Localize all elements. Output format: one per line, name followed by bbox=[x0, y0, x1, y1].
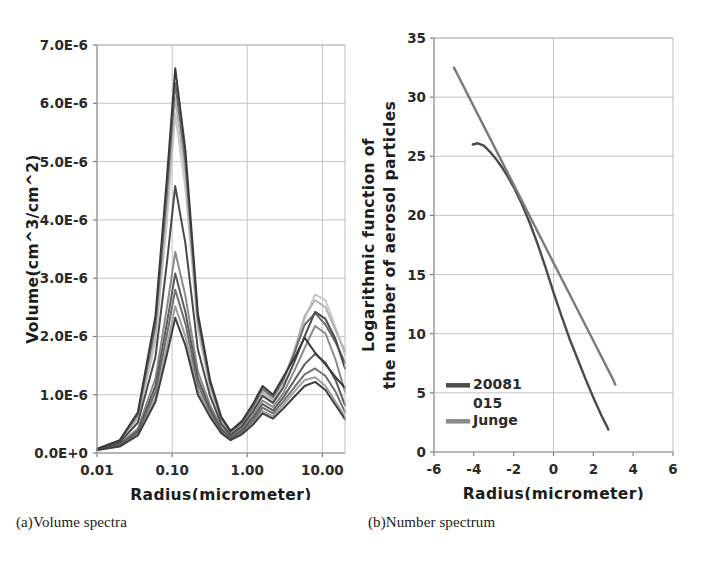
y-tick-label-b: 5 bbox=[417, 385, 426, 401]
gridlines-group-a bbox=[97, 45, 345, 453]
legend-label-series-20081015: 20081 bbox=[473, 376, 522, 392]
y-tick-label-b: 0 bbox=[417, 444, 426, 460]
y-tick-label-b: 25 bbox=[407, 148, 426, 164]
x-tick-label-b: 0 bbox=[549, 461, 558, 477]
x-tick-label-b: 4 bbox=[628, 461, 637, 477]
y-tick-label-b: 10 bbox=[407, 326, 426, 342]
y-axis-title-b-line1: Logarithmic function of bbox=[360, 138, 378, 352]
legend-group-b: 20081015Junge bbox=[446, 376, 522, 428]
y-tick-label-a: 1.0E-6 bbox=[40, 387, 88, 403]
y-tick-label-b: 30 bbox=[407, 89, 426, 105]
y-tick-label-a: 0.0E+0 bbox=[34, 445, 88, 461]
number-curve-Junge bbox=[454, 68, 615, 385]
axis-labels-group-b: 05101520253035-6-4-20246Radius(micromete… bbox=[360, 30, 678, 500]
legend-label-series-20081015-line2: 015 bbox=[473, 395, 502, 411]
x-tick-label-a: 0.01 bbox=[80, 462, 113, 478]
x-tick-label-a: 0.10 bbox=[155, 462, 188, 478]
y-tick-label-a: 3.0E-6 bbox=[40, 270, 88, 286]
y-tick-label-a: 7.0E-6 bbox=[40, 37, 88, 53]
chart-panel-number-spectrum: 20081015Junge 05101520253035-6-4-20246Ra… bbox=[352, 0, 706, 500]
y-tick-label-b: 20 bbox=[407, 207, 426, 223]
x-tick-label-a: 1.00 bbox=[231, 462, 264, 478]
x-tick-label-a: 10.00 bbox=[301, 462, 344, 478]
y-tick-label-a: 5.0E-6 bbox=[40, 154, 88, 170]
y-tick-label-b: 15 bbox=[407, 267, 426, 283]
y-tick-label-a: 2.0E-6 bbox=[40, 328, 88, 344]
volume-spectra-svg: 0.0E+01.0E-62.0E-63.0E-64.0E-65.0E-66.0E… bbox=[0, 0, 360, 500]
y-axis-title-b-line2: the number of aerosol particles bbox=[381, 101, 399, 389]
x-axis-title-a: Radius(micrometer) bbox=[130, 486, 312, 500]
volume-curve bbox=[97, 97, 345, 448]
x-tick-label-b: -2 bbox=[506, 461, 521, 477]
volume-curve bbox=[97, 186, 345, 449]
volume-curve bbox=[97, 83, 345, 449]
volume-curve bbox=[97, 68, 345, 449]
number-spectrum-svg: 20081015Junge 05101520253035-6-4-20246Ra… bbox=[352, 0, 706, 500]
caption-volume-spectra: (a)Volume spectra bbox=[16, 514, 127, 531]
y-tick-label-b: 35 bbox=[407, 30, 426, 46]
chart-panel-volume-spectra: 0.0E+01.0E-62.0E-63.0E-64.0E-65.0E-66.0E… bbox=[0, 0, 360, 500]
y-tick-label-a: 6.0E-6 bbox=[40, 95, 88, 111]
curves-group-a bbox=[97, 68, 345, 450]
x-tick-label-b: -4 bbox=[466, 461, 481, 477]
x-tick-label-b: 6 bbox=[668, 461, 677, 477]
y-tick-label-a: 4.0E-6 bbox=[40, 212, 88, 228]
x-axis-title-b: Radius(micrometer) bbox=[463, 485, 645, 500]
caption-number-spectrum: (b)Number spectrum bbox=[368, 514, 495, 531]
x-tick-label-b: 2 bbox=[589, 461, 598, 477]
axis-labels-group-a: 0.0E+01.0E-62.0E-63.0E-64.0E-65.0E-66.0E… bbox=[24, 37, 344, 500]
y-axis-title-a: Volume(cm^3/cm^2) bbox=[24, 154, 42, 344]
volume-curve bbox=[97, 114, 345, 450]
legend-label-series-junge: Junge bbox=[472, 412, 518, 428]
curves-group-b bbox=[454, 68, 615, 430]
figure-container: 0.0E+01.0E-62.0E-63.0E-64.0E-65.0E-66.0E… bbox=[0, 0, 706, 564]
x-tick-label-b: -6 bbox=[427, 461, 442, 477]
axes-group-a bbox=[93, 45, 345, 457]
